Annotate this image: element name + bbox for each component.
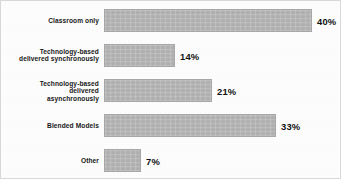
bar-track: 21% bbox=[104, 79, 212, 102]
bar-other: 7% bbox=[104, 149, 141, 172]
bar-row: Blended Models 33% bbox=[1, 114, 341, 137]
bar-row: Other 7% bbox=[1, 149, 341, 172]
category-label: Other bbox=[3, 157, 99, 165]
category-label: Classroom only bbox=[3, 17, 99, 25]
bar-track: 7% bbox=[104, 149, 141, 172]
bar-track: 14% bbox=[104, 44, 175, 67]
bar-technology-based-asynchronous: 21% bbox=[104, 79, 212, 102]
bar-technology-based-synchronous: 14% bbox=[104, 44, 175, 67]
bar-track: 40% bbox=[104, 9, 312, 32]
bar-value-label: 14% bbox=[180, 50, 199, 61]
bar-value-label: 7% bbox=[146, 155, 160, 166]
bar-track: 33% bbox=[104, 114, 276, 137]
bar-blended-models: 33% bbox=[104, 114, 276, 137]
bar-row: Technology-based delivered synchronously… bbox=[1, 44, 341, 67]
bar-row: Technology-based delivered asynchronousl… bbox=[1, 79, 341, 102]
category-label: Blended Models bbox=[3, 122, 99, 130]
bar-value-label: 40% bbox=[317, 15, 336, 26]
category-label: Technology-based delivered synchronously bbox=[3, 48, 99, 63]
bar-value-label: 33% bbox=[281, 120, 300, 131]
bar-row: Classroom only 40% bbox=[1, 9, 341, 32]
bar-chart-figure: Classroom only 40% Technology-based deli… bbox=[0, 0, 341, 179]
bar-value-label: 21% bbox=[217, 85, 236, 96]
category-label: Technology-based delivered asynchronousl… bbox=[3, 79, 99, 102]
bar-classroom-only: 40% bbox=[104, 9, 312, 32]
